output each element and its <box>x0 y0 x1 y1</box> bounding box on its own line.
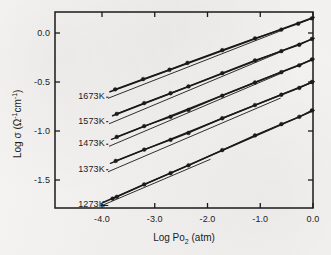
x-axis-label: Log Po2 (atm) <box>153 232 215 243</box>
data-point-1373K-8 <box>310 80 314 84</box>
series-1473K <box>106 58 314 147</box>
series-label-1273K: 1273K <box>78 200 105 209</box>
data-point-1373K-1 <box>142 148 146 152</box>
data-point-1373K-6 <box>279 93 283 97</box>
series-label-1573K: 1573K <box>78 117 105 126</box>
guide-line-1273K <box>102 159 210 205</box>
y-tick-label-0: 0.0 <box>22 29 50 38</box>
data-point-1473K-7 <box>297 63 301 67</box>
data-point-1273K-0 <box>111 197 115 201</box>
x-tick-label-1: -3.0 <box>147 215 163 224</box>
y-tick-label-1: -0.5 <box>22 78 50 87</box>
data-point-1573K-0 <box>115 112 119 116</box>
data-point-1673K-8 <box>310 16 314 20</box>
y-tick-label-3: -1.5 <box>22 176 50 185</box>
series-label-1473K: 1473K <box>78 139 105 148</box>
data-point-1273K-7 <box>279 122 283 126</box>
data-point-1673K-1 <box>141 77 145 81</box>
data-point-1673K-7 <box>296 22 300 26</box>
data-point-1373K-0 <box>114 159 118 163</box>
data-point-1573K-2 <box>169 91 173 95</box>
data-point-1273K-8 <box>297 115 301 119</box>
y-axis-label: Log σ (Ω-1cm-1) <box>12 90 23 158</box>
series-label-1373K: 1373K <box>78 165 105 174</box>
data-point-1473K-6 <box>279 70 283 74</box>
data-point-1473K-5 <box>253 81 257 85</box>
data-point-1273K-2 <box>142 183 146 187</box>
data-point-1573K-5 <box>253 59 257 63</box>
data-point-1473K-8 <box>310 58 314 62</box>
x-tick-label-4: 0.0 <box>307 215 320 224</box>
x-tick-label-2: -2.0 <box>200 215 216 224</box>
data-point-1573K-1 <box>142 101 146 105</box>
data-point-1673K-5 <box>253 36 257 40</box>
data-point-1573K-3 <box>187 85 191 89</box>
data-point-1373K-3 <box>187 131 191 135</box>
data-point-1273K-5 <box>220 148 224 152</box>
series-1373K <box>106 80 314 172</box>
data-point-1673K-0 <box>113 87 117 91</box>
data-point-1373K-2 <box>169 138 173 142</box>
x-tick-label-0: -4.0 <box>94 215 110 224</box>
data-point-1373K-7 <box>297 86 301 90</box>
data-point-1573K-8 <box>310 37 314 41</box>
data-point-1273K-3 <box>169 171 173 175</box>
series-1573K <box>106 37 314 124</box>
data-point-1473K-2 <box>169 115 173 119</box>
data-point-1573K-6 <box>279 49 283 53</box>
series-label-1673K: 1673K <box>78 92 105 101</box>
data-point-1373K-5 <box>253 103 257 107</box>
x-tick-label-3: -1.0 <box>252 215 268 224</box>
data-point-1373K-4 <box>220 116 224 120</box>
series-1673K <box>106 16 314 98</box>
data-point-1273K-6 <box>253 134 257 138</box>
data-point-1673K-2 <box>168 68 172 72</box>
figure-chart-log-sigma-vs-log-po2: -4.0-3.0-2.0-1.00.00.0-0.5-1.0-1.5 1673K… <box>0 0 331 255</box>
data-point-1273K-4 <box>187 163 191 167</box>
data-point-1573K-4 <box>220 71 224 75</box>
data-point-1573K-7 <box>297 43 301 47</box>
data-point-1673K-6 <box>279 28 283 32</box>
series-1273K <box>100 109 314 206</box>
data-point-1673K-4 <box>220 48 224 52</box>
data-point-1473K-0 <box>115 135 119 139</box>
data-point-1473K-1 <box>142 124 146 128</box>
data-point-1273K-1 <box>115 195 119 199</box>
data-point-1473K-4 <box>220 94 224 98</box>
data-point-1673K-3 <box>186 61 190 65</box>
data-point-1273K-9 <box>310 109 314 113</box>
y-tick-label-2: -1.0 <box>22 127 50 136</box>
data-point-1473K-3 <box>187 108 191 112</box>
